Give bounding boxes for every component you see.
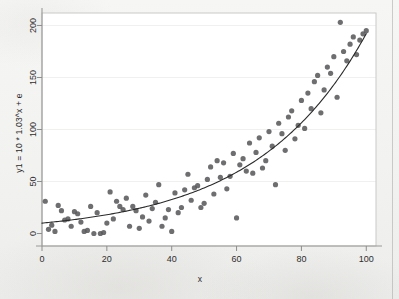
data-point	[49, 223, 54, 228]
data-point	[202, 201, 207, 206]
data-point	[59, 208, 64, 213]
data-point	[240, 156, 245, 161]
data-point	[124, 196, 129, 201]
data-point	[312, 79, 317, 84]
y-tick-label: 50	[28, 177, 38, 187]
figure-canvas: 050100150200020406080100 y1 = 10 * 1.03^…	[0, 0, 399, 299]
y-tick-label: 100	[28, 122, 38, 137]
data-point	[150, 206, 155, 211]
data-point	[95, 210, 100, 215]
data-point	[250, 171, 255, 176]
data-point	[52, 229, 57, 234]
data-point	[299, 98, 304, 103]
data-point	[334, 95, 339, 100]
data-point	[347, 42, 352, 47]
x-tick-label: 20	[102, 254, 112, 264]
data-point	[302, 126, 307, 131]
data-point	[108, 189, 113, 194]
data-point	[140, 214, 145, 219]
data-point	[247, 140, 252, 145]
data-point	[231, 151, 236, 156]
data-point	[75, 211, 80, 216]
data-point	[211, 191, 216, 196]
y-tick-label: 150	[28, 70, 38, 85]
data-point	[195, 183, 200, 188]
data-point	[101, 230, 106, 235]
data-point	[172, 190, 177, 195]
data-point	[91, 231, 96, 236]
y-tick-label: 0	[28, 231, 38, 236]
data-point	[205, 177, 210, 182]
data-point	[56, 203, 61, 208]
data-point	[215, 158, 220, 163]
data-point	[176, 210, 181, 215]
data-point	[143, 192, 148, 197]
x-tick-label: 100	[359, 254, 374, 264]
data-point	[114, 199, 119, 204]
data-point	[364, 28, 369, 33]
data-point	[260, 165, 265, 170]
data-point	[279, 131, 284, 136]
data-point	[289, 108, 294, 113]
data-point	[338, 20, 343, 25]
y-tick-label: 200	[28, 18, 38, 33]
data-point	[286, 114, 291, 119]
data-point	[341, 49, 346, 54]
data-point	[163, 215, 168, 220]
data-point	[325, 64, 330, 69]
data-point	[179, 205, 184, 210]
x-tick-label: 80	[296, 254, 306, 264]
data-point	[266, 129, 271, 134]
data-point	[111, 216, 116, 221]
data-point	[189, 198, 194, 203]
x-axis-ticks: 020406080100	[39, 246, 373, 264]
data-point	[104, 221, 109, 226]
data-point	[292, 136, 297, 141]
data-point	[351, 34, 356, 39]
data-point	[88, 204, 93, 209]
data-point	[276, 121, 281, 126]
data-point	[263, 158, 268, 163]
data-point	[78, 219, 83, 224]
data-point	[146, 218, 151, 223]
data-point	[208, 164, 213, 169]
data-point	[322, 87, 327, 92]
data-point	[46, 227, 51, 232]
data-point	[244, 169, 249, 174]
data-point	[257, 135, 262, 140]
data-point	[253, 150, 258, 155]
data-point	[283, 148, 288, 153]
data-point	[169, 229, 174, 234]
data-point	[234, 215, 239, 220]
data-point	[159, 224, 164, 229]
y-axis-label: y1 = 10 * 1.03^x + e	[14, 73, 24, 193]
data-point	[137, 226, 142, 231]
data-point	[85, 228, 90, 233]
data-point	[331, 54, 336, 59]
data-point	[198, 205, 203, 210]
data-point	[69, 224, 74, 229]
x-axis-label: x	[198, 274, 202, 284]
data-point	[328, 71, 333, 76]
data-point	[315, 73, 320, 78]
data-point	[237, 162, 242, 167]
data-point	[305, 90, 310, 95]
x-tick-label: 0	[39, 254, 44, 264]
x-tick-label: 40	[167, 254, 177, 264]
scatter-plot: 050100150200020406080100	[0, 0, 399, 299]
data-point	[166, 207, 171, 212]
data-point	[182, 187, 187, 192]
data-point	[156, 182, 161, 187]
data-point	[185, 172, 190, 177]
data-point	[273, 182, 278, 187]
data-point	[127, 224, 132, 229]
x-tick-label: 60	[232, 254, 242, 264]
data-point	[318, 110, 323, 115]
y-axis-ticks: 050100150200	[28, 18, 42, 236]
data-point	[224, 186, 229, 191]
data-point	[130, 204, 135, 209]
data-point	[43, 199, 48, 204]
data-point	[221, 160, 226, 165]
